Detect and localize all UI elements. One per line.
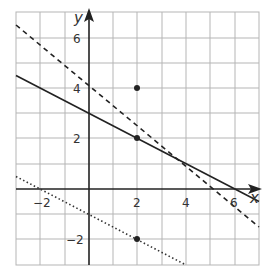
- tick-x-6: 6: [230, 196, 238, 210]
- tick-y-2: 2: [73, 132, 81, 146]
- x-axis-label: x: [249, 189, 259, 207]
- point-2-4: [134, 85, 140, 91]
- point-2-2: [134, 135, 140, 141]
- tick-x-2: 2: [133, 196, 141, 210]
- tick-x-4: 4: [182, 196, 190, 210]
- tick-y-6: 6: [73, 32, 81, 46]
- point-2-neg2: [134, 236, 140, 242]
- tick-y-4: 4: [73, 82, 81, 96]
- axes: [16, 16, 254, 265]
- y-axis-label: y: [73, 9, 84, 27]
- tick-y-neg2: −2: [66, 233, 84, 247]
- coordinate-plane: −2 2 4 6 6 4 2 −2 y x: [0, 0, 267, 276]
- tick-x-neg2: −2: [33, 196, 51, 210]
